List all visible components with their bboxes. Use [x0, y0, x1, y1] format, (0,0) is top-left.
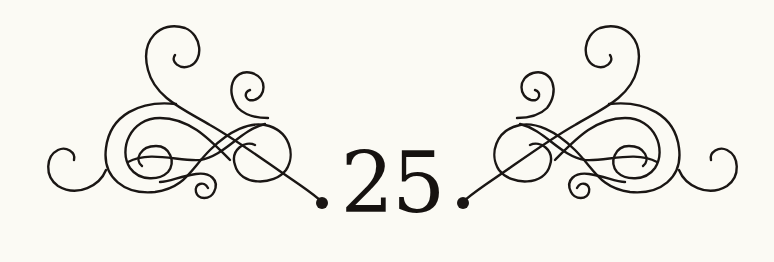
left-flourish [48, 26, 328, 209]
page-number: 25 [330, 128, 454, 238]
right-flourish [457, 26, 737, 209]
